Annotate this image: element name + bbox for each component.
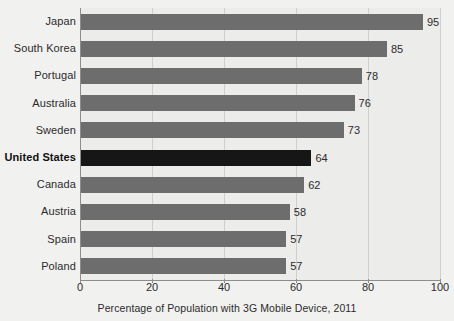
category-label: Canada <box>0 179 76 190</box>
bar-value-label: 85 <box>391 43 403 54</box>
category-label: Poland <box>0 261 76 272</box>
category-label: Austria <box>0 206 76 217</box>
bar-value-label: 64 <box>315 152 327 163</box>
x-tick-label: 60 <box>290 282 302 293</box>
bar-value-label: 58 <box>294 206 306 217</box>
x-tick-label: 0 <box>77 282 83 293</box>
bar-row: South Korea 85 <box>0 35 454 62</box>
x-tick-mark <box>296 279 297 283</box>
bar-chart: Japan 95 South Korea 85 Portugal 78 Aust… <box>0 0 454 321</box>
bar <box>81 68 362 84</box>
bar <box>81 231 286 247</box>
bar-row: Canada 62 <box>0 171 454 198</box>
x-axis-line <box>80 280 441 281</box>
x-tick-label: 20 <box>146 282 158 293</box>
category-label: Sweden <box>0 125 76 136</box>
bar-value-label: 76 <box>359 98 371 109</box>
x-tick-mark <box>368 279 369 283</box>
x-axis-title: Percentage of Population with 3G Mobile … <box>0 302 454 314</box>
bar-rows: Japan 95 South Korea 85 Portugal 78 Aust… <box>0 8 454 280</box>
category-label: Japan <box>0 16 76 27</box>
x-tick-mark <box>152 279 153 283</box>
x-axis-ticks: 0 20 40 60 80 100 <box>0 282 454 298</box>
bar-row: Sweden 73 <box>0 117 454 144</box>
bar-value-label: 57 <box>290 261 302 272</box>
bar <box>81 95 355 111</box>
x-tick-mark <box>440 279 441 283</box>
category-label: Spain <box>0 234 76 245</box>
bar-row: Japan 95 <box>0 8 454 35</box>
bar <box>81 122 344 138</box>
bar <box>81 41 387 57</box>
category-label: Australia <box>0 98 76 109</box>
x-tick-mark <box>80 279 81 283</box>
bar-row: Austria 58 <box>0 198 454 225</box>
bar-value-label: 73 <box>348 125 360 136</box>
bar <box>81 177 304 193</box>
bar-row: Australia 76 <box>0 90 454 117</box>
bar-value-label: 62 <box>308 179 320 190</box>
bar <box>81 204 290 220</box>
bar-row: Spain 57 <box>0 226 454 253</box>
category-label: South Korea <box>0 43 76 54</box>
bar-row: Poland 57 <box>0 253 454 280</box>
bar-row-highlighted: United States 64 <box>0 144 454 171</box>
bar-value-label: 78 <box>366 70 378 81</box>
bar-row: Portugal 78 <box>0 62 454 89</box>
bar-value-label: 95 <box>427 16 439 27</box>
x-tick-mark <box>224 279 225 283</box>
category-label-highlighted: United States <box>0 152 76 163</box>
x-tick-label: 100 <box>431 282 449 293</box>
x-tick-label: 80 <box>362 282 374 293</box>
bar-value-label: 57 <box>290 234 302 245</box>
category-label: Portugal <box>0 70 76 81</box>
bar <box>81 14 423 30</box>
bar <box>81 258 286 274</box>
bar-highlighted <box>81 150 311 166</box>
x-tick-label: 40 <box>218 282 230 293</box>
